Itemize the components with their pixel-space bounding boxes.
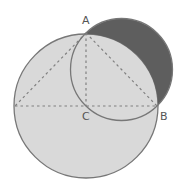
label-C: C <box>82 110 90 123</box>
label-B: B <box>160 110 168 123</box>
geometry-diagram: A C B <box>0 0 183 192</box>
label-A: A <box>82 14 90 27</box>
